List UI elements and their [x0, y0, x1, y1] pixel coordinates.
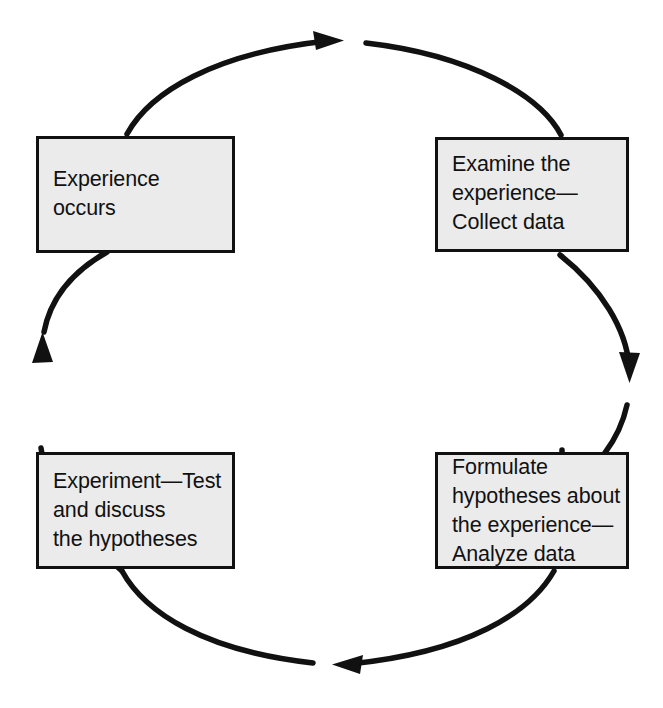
arrow-top-right-shaft: [366, 43, 561, 135]
node-formulate-hypotheses: Formulate hypotheses about the experienc…: [435, 452, 629, 569]
arrow-bottom-left-shaft: [122, 571, 313, 663]
cycle-arrows-svg: [0, 0, 663, 708]
arrow-bottom-head: [332, 655, 363, 674]
arrow-top-head: [313, 31, 344, 50]
arrow-right-shaft: [560, 255, 629, 365]
node-experience-label: Experience occurs: [53, 165, 160, 225]
node-experiment-label: Experiment—Test and discuss the hypothes…: [53, 467, 221, 554]
node-examine-experience: Examine the experience— Collect data: [435, 137, 629, 252]
node-formulate-label: Formulate hypotheses about the experienc…: [452, 453, 620, 569]
arrow-top-shaft: [127, 41, 327, 134]
arrow-right-head: [619, 352, 640, 383]
arrow-left-head: [32, 332, 53, 363]
node-experience-occurs: Experience occurs: [36, 136, 235, 253]
arrow-left-upper-shaft: [44, 252, 107, 332]
node-examine-label: Examine the experience— Collect data: [452, 150, 578, 239]
arrow-bottom-shaft: [350, 571, 554, 664]
node-experiment-test: Experiment—Test and discuss the hypothes…: [36, 452, 235, 569]
cycle-diagram: Experience occurs Examine the experience…: [0, 0, 663, 708]
